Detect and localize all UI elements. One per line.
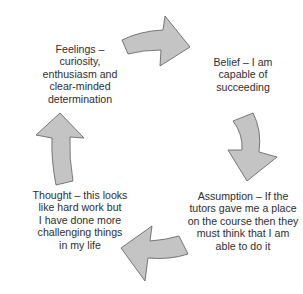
node-assumption: Assumption – If the tutors gave me a pla… xyxy=(183,190,303,252)
node-feelings: Feelings – curiosity, enthusiasm and cle… xyxy=(20,43,140,105)
node-thought-line: Thought – this looks xyxy=(18,189,142,201)
node-feelings-line: clear-minded xyxy=(20,80,140,92)
node-belief: Belief – I am capable of succeeding xyxy=(193,56,293,93)
node-feelings-line: curiosity, xyxy=(20,55,140,67)
node-thought-line: in my life xyxy=(18,239,142,251)
node-assumption-line: must think that I am xyxy=(183,227,303,239)
node-assumption-line: Assumption – If the xyxy=(183,190,303,202)
node-belief-line: capable of xyxy=(193,68,293,80)
node-thought-line: challenging things xyxy=(18,226,142,238)
node-feelings-line: enthusiasm and xyxy=(20,68,140,80)
node-feelings-line: Feelings – xyxy=(20,43,140,55)
node-assumption-line: able to do it xyxy=(183,240,303,252)
node-assumption-line: tutors gave me a place xyxy=(183,202,303,214)
up-curved-arrow xyxy=(36,113,84,185)
node-thought: Thought – this looks like hard work but … xyxy=(18,189,142,251)
down-curved-arrow xyxy=(228,113,277,181)
node-thought-line: I have done more xyxy=(18,214,142,226)
cycle-diagram: Feelings – curiosity, enthusiasm and cle… xyxy=(0,0,303,294)
node-thought-line: like hard work but xyxy=(18,201,142,213)
node-feelings-line: determination xyxy=(20,93,140,105)
node-assumption-line: on the course then they xyxy=(183,215,303,227)
node-belief-line: Belief – I am xyxy=(193,56,293,68)
node-belief-line: succeeding xyxy=(193,81,293,93)
